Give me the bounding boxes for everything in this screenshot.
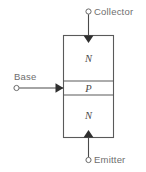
collector-terminal-dot[interactable] <box>86 9 91 14</box>
base-arrow-icon <box>56 83 64 93</box>
collector-region-label: N <box>84 53 93 64</box>
collector-terminal-label: Collector <box>94 6 133 17</box>
emitter-region-label: N <box>84 110 93 121</box>
emitter-terminal-dot[interactable] <box>86 157 91 162</box>
base-terminal-label: Base <box>14 71 36 82</box>
diagram-canvas: N P N Collector Base Emitter <box>0 0 146 172</box>
emitter-terminal-label: Emitter <box>94 154 126 165</box>
base-terminal-dot[interactable] <box>14 85 19 90</box>
npn-transistor-diagram: N P N Collector Base Emitter <box>0 0 146 172</box>
base-region-label: P <box>84 83 92 94</box>
